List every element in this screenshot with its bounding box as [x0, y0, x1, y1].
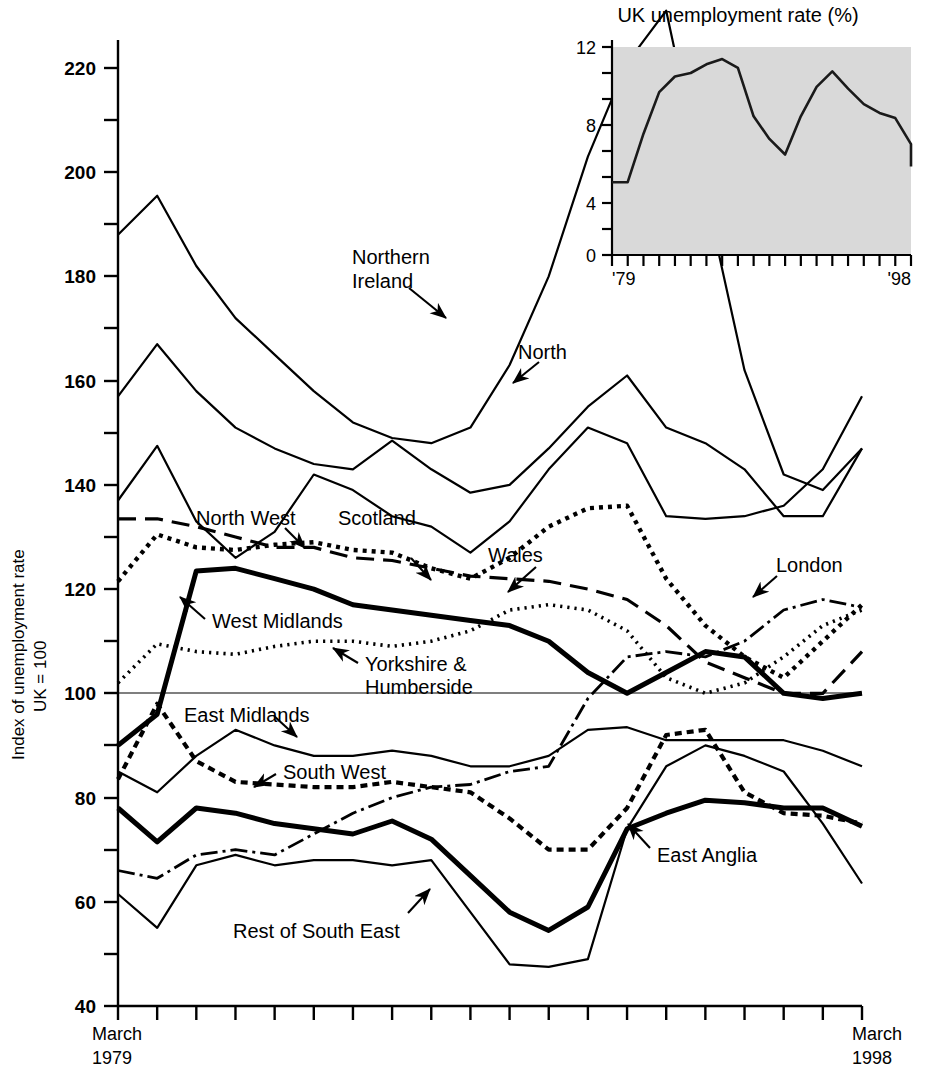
series-line-north-west: [118, 506, 862, 678]
label-south-west: South West: [283, 761, 386, 783]
inset-ytick-4: 4: [586, 194, 596, 214]
leader-northern-ireland: [409, 288, 446, 318]
label-northern-ireland-line2: Ireland: [352, 270, 413, 292]
leader-london: [753, 576, 777, 597]
series-line-east-midlands: [118, 727, 862, 792]
label-east-midlands: East Midlands: [184, 704, 310, 726]
label-scotland: Scotland: [338, 507, 416, 529]
x-axis-ticks: [118, 1006, 862, 1020]
y-axis-ticks: [104, 68, 118, 1006]
xcap-start-line2: 1979: [92, 1048, 132, 1068]
y-axis-tick-labels: 220 200 180 160 140 120 100 80 60 40: [64, 58, 96, 1017]
inset-xtick-end: '98: [888, 269, 911, 289]
label-rest-of-south-east: Rest of South East: [233, 920, 400, 942]
leader-east-anglia: [628, 824, 650, 848]
inset-chart: UK unemployment rate (%) 12 8 4 0: [576, 4, 911, 289]
leader-rest-of-south-east: [408, 889, 430, 913]
inset-y-tick-labels: 12 8 4 0: [576, 38, 596, 266]
y-axis-label-line2: UK = 100: [31, 641, 50, 712]
y-axis-label-line1: Index of unemployment rate: [9, 549, 28, 760]
y-axis-label: Index of unemployment rate UK = 100: [9, 549, 50, 760]
label-wales: Wales: [488, 544, 543, 566]
inset-y-ticks: [602, 47, 612, 255]
x-axis-captions: March 1979 March 1998: [92, 1024, 902, 1068]
inset-ytick-12: 12: [576, 38, 596, 58]
ytick-60: 60: [75, 892, 96, 913]
ytick-160: 160: [64, 371, 96, 392]
inset-title: UK unemployment rate (%): [617, 4, 858, 26]
label-yorkshire-line1: Yorkshire &: [365, 653, 467, 675]
series-line-london: [118, 600, 862, 879]
annotation-leaders: [180, 288, 777, 913]
figure-root: Index of unemployment rate UK = 100: [0, 0, 939, 1077]
ytick-180: 180: [64, 266, 96, 287]
inset-x-ticks: [612, 255, 911, 266]
ytick-120: 120: [64, 579, 96, 600]
regional-unemployment-index-chart: Index of unemployment rate UK = 100: [0, 0, 939, 1077]
label-yorkshire-line2: Humberside: [365, 676, 473, 698]
leader-yorkshire: [333, 648, 358, 663]
label-north-west: North West: [196, 507, 296, 529]
xcap-end-line2: 1998: [852, 1048, 892, 1068]
ytick-200: 200: [64, 162, 96, 183]
ytick-140: 140: [64, 475, 96, 496]
series-line-north: [118, 344, 862, 516]
label-london: London: [776, 554, 843, 576]
inset-ytick-0: 0: [586, 246, 596, 266]
xcap-start-line1: March: [92, 1024, 142, 1044]
label-north: North: [518, 341, 567, 363]
label-west-midlands: West Midlands: [212, 610, 343, 632]
inset-plot-background: [612, 47, 911, 255]
series-annotations: Northern Ireland North North West Scotla…: [184, 246, 843, 942]
inset-xtick-start: '79: [612, 269, 635, 289]
label-east-anglia: East Anglia: [657, 844, 758, 866]
leader-north: [513, 362, 539, 383]
ytick-100: 100: [64, 683, 96, 704]
xcap-end-line1: March: [852, 1024, 902, 1044]
ytick-80: 80: [75, 788, 96, 809]
ytick-40: 40: [75, 996, 96, 1017]
inset-ytick-8: 8: [586, 116, 596, 136]
ytick-220: 220: [64, 58, 96, 79]
label-northern-ireland-line1: Northern: [352, 246, 430, 268]
leader-scotland: [411, 558, 431, 580]
